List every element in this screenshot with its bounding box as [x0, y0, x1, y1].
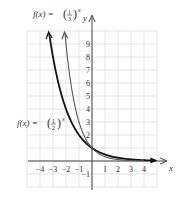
- y-tick-label: 3: [86, 118, 90, 127]
- svg-text:2: 2: [52, 125, 55, 131]
- y-tick-label: 5: [86, 92, 90, 101]
- x-tick-label: −4: [36, 165, 45, 174]
- x-axis-label: x: [168, 163, 173, 173]
- exponential-chart: −4−3−2−11234−123456789xy f(x) =(13)xf(x)…: [0, 0, 181, 197]
- y-axis-label: y: [82, 13, 87, 23]
- y-tick-label: 4: [86, 105, 90, 114]
- svg-text:): ): [57, 116, 61, 130]
- svg-text:): ): [73, 7, 77, 21]
- x-tick-label: 3: [129, 165, 133, 174]
- svg-text:1: 1: [52, 118, 55, 124]
- label-f-one-half: f(x) =(12)x: [17, 116, 65, 131]
- x-tick-label: 2: [116, 165, 120, 174]
- x-tick-label: −2: [62, 165, 71, 174]
- curve-third: [65, 33, 144, 161]
- axes: [28, 15, 167, 190]
- curve-end-arrow-icon: [150, 158, 157, 164]
- svg-text:f(x) =: f(x) =: [33, 9, 54, 19]
- svg-text:(: (: [47, 116, 51, 130]
- curves: [46, 32, 157, 164]
- svg-text:3: 3: [68, 16, 71, 22]
- x-tick-label: −3: [49, 165, 58, 174]
- label-f-one-third: f(x) =(13)x: [33, 7, 81, 22]
- y-tick-label: −1: [81, 170, 90, 179]
- curve-half: [49, 33, 156, 161]
- svg-text:x: x: [77, 7, 81, 13]
- y-tick-label: 6: [86, 79, 90, 88]
- y-tick-label: 2: [86, 131, 90, 140]
- y-tick-label: 7: [86, 66, 90, 75]
- y-tick-label: 9: [86, 40, 90, 49]
- svg-text:f(x) =: f(x) =: [17, 118, 38, 128]
- x-tick-label: 4: [142, 165, 146, 174]
- y-tick-label: 8: [86, 53, 90, 62]
- svg-text:x: x: [61, 116, 65, 122]
- svg-text:1: 1: [68, 9, 71, 15]
- x-tick-label: 1: [103, 165, 107, 174]
- svg-text:(: (: [63, 7, 67, 21]
